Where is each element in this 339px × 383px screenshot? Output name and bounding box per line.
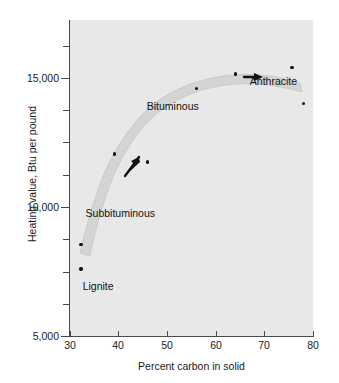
- data-point: [113, 152, 116, 155]
- x-tick-60: [216, 331, 217, 337]
- annotation-subbituminous: Subbituminous: [86, 207, 155, 219]
- x-tick-label-80: 80: [293, 339, 333, 351]
- data-point: [146, 160, 149, 163]
- data-point: [234, 72, 237, 75]
- x-axis-line: [69, 336, 314, 337]
- y-tick-minor: [63, 175, 69, 176]
- y-tick-15000: [61, 78, 69, 79]
- data-point: [79, 267, 82, 270]
- annotation-bituminous: Bituminous: [147, 100, 199, 112]
- y-tick-5000: [61, 336, 69, 337]
- x-tick-30: [70, 331, 71, 337]
- y-tick-10000: [61, 207, 69, 208]
- x-tick-label-50: 50: [147, 339, 187, 351]
- x-tick-40: [118, 331, 119, 337]
- y-tick-minor: [63, 110, 69, 111]
- data-point: [195, 87, 198, 90]
- y-tick-minor: [63, 272, 69, 273]
- x-tick-label-70: 70: [244, 339, 284, 351]
- y-tick-minor: [63, 239, 69, 240]
- x-tick-80: [313, 331, 314, 337]
- y-tick-minor: [63, 142, 69, 143]
- annotation-lignite: Lignite: [83, 280, 114, 292]
- x-axis-title: Percent carbon in solid: [70, 360, 313, 372]
- annotation-anthracite: Anthracite: [250, 75, 297, 87]
- data-point: [79, 243, 82, 246]
- x-tick-label-60: 60: [196, 339, 236, 351]
- x-tick-label-40: 40: [98, 339, 138, 351]
- x-tick-50: [167, 331, 168, 337]
- x-tick-label-30: 30: [50, 339, 90, 351]
- coal-heating-value-chart: 15,000 10,000 5,000 30 40 50 60 70 80 He…: [0, 0, 339, 383]
- y-tick-minor: [63, 46, 69, 47]
- y-axis-line: [69, 20, 70, 337]
- y-tick-minor: [63, 304, 69, 305]
- x-tick-70: [264, 331, 265, 337]
- y-axis-title: Heating value, Btu per pound: [26, 64, 38, 284]
